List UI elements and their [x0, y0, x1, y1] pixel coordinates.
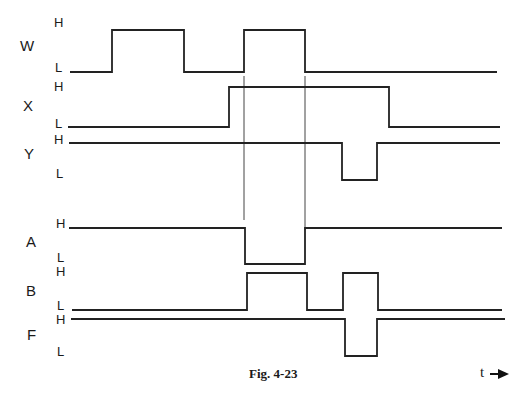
signal-name-y: Y — [24, 145, 34, 162]
waveform-y — [69, 143, 500, 180]
alignment-guide-lines — [244, 76, 305, 230]
waveforms — [68, 30, 505, 356]
level-high-b: H — [56, 264, 65, 279]
signal-name-f: F — [27, 326, 36, 343]
signal-name-w: W — [20, 37, 34, 54]
waveform-f — [71, 319, 505, 356]
waveform-a — [69, 228, 502, 264]
level-high-w: H — [54, 15, 63, 30]
waveform-x — [68, 87, 500, 127]
waveform-b — [72, 273, 502, 310]
level-low-b: L — [57, 298, 64, 313]
level-high-x: H — [54, 79, 63, 94]
level-high-y: H — [54, 132, 63, 147]
level-low-y: L — [56, 166, 63, 181]
figure-caption: Fig. 4-23 — [249, 366, 297, 382]
time-arrow-icon — [490, 369, 509, 379]
level-high-f: H — [56, 312, 65, 327]
timing-diagram — [0, 0, 530, 396]
waveform-w — [70, 30, 497, 72]
level-low-f: L — [57, 344, 64, 359]
level-high-a: H — [56, 216, 65, 231]
signal-name-x: X — [23, 97, 33, 114]
level-low-a: L — [57, 250, 64, 265]
signal-name-b: B — [26, 282, 36, 299]
signal-name-a: A — [26, 233, 36, 250]
level-low-w: L — [55, 60, 62, 75]
time-axis-label: t — [480, 364, 484, 381]
level-low-x: L — [55, 116, 62, 131]
